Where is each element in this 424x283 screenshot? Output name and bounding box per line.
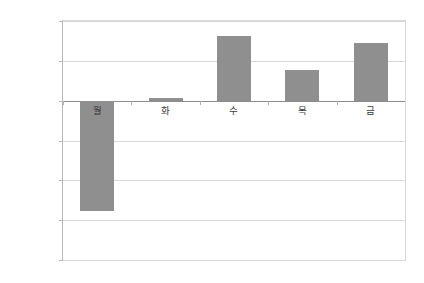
category-slot: 수: [200, 21, 268, 260]
x-axis-label: 월: [67, 106, 127, 116]
category-slot: 월: [63, 21, 131, 260]
category-slot: 화: [131, 21, 199, 260]
category-slot: 목: [268, 21, 336, 260]
category-slot: 금: [337, 21, 405, 260]
x-axis-label: 목: [272, 106, 332, 116]
bar-chart: 0.100%0.050%0.00%-0.050%-0.100%-0.150%-0…: [0, 0, 424, 283]
category-axis-layer: 월화수목금: [63, 21, 405, 260]
x-axis-label: 화: [136, 106, 196, 116]
x-axis-label: 수: [204, 106, 264, 116]
x-axis-label: 금: [341, 106, 401, 116]
y-axis-tick: [59, 260, 63, 261]
plot-area: 0.100%0.050%0.00%-0.050%-0.100%-0.150%-0…: [62, 20, 406, 261]
gridline: [63, 260, 405, 261]
